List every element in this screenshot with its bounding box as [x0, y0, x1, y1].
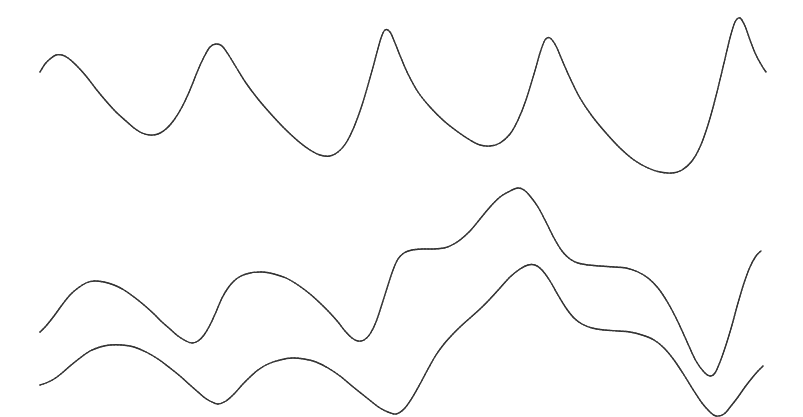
figure-container: [0, 0, 803, 417]
line-chart-canvas: [0, 0, 803, 417]
plot-background: [0, 0, 803, 417]
